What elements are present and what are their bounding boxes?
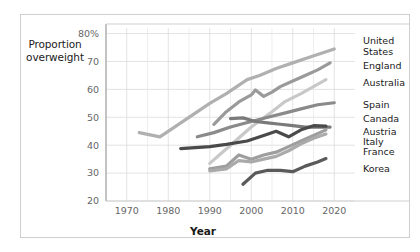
y-tick-label: 30 xyxy=(87,167,99,178)
figure-container: Proportion overweight Year 2030405060708… xyxy=(0,0,420,252)
y-tick-label: 40 xyxy=(87,140,99,151)
legend-label-line2: States xyxy=(363,47,394,58)
y-tick-label: 50 xyxy=(87,112,99,123)
legend-label-spain: Spain xyxy=(363,100,390,111)
y-tick-label: 20 xyxy=(87,195,99,206)
x-tick-label: 1980 xyxy=(156,205,180,216)
y-tick-labels-group: 20304050607080% xyxy=(78,28,99,206)
x-tick-label: 1970 xyxy=(115,205,139,216)
legend-label-united-states: UnitedStates xyxy=(363,36,394,57)
x-tick-labels-group: 197019801990200020102020 xyxy=(115,205,347,216)
x-tick-label: 2020 xyxy=(322,205,346,216)
y-tick-label: 80% xyxy=(78,28,99,39)
legend-label-korea: Korea xyxy=(363,164,390,175)
legend-label-australia: Australia xyxy=(363,78,405,89)
x-tick-label: 2010 xyxy=(281,205,305,216)
y-tick-label: 70 xyxy=(87,56,99,67)
x-tick-label: 1990 xyxy=(198,205,222,216)
legend-label-england: England xyxy=(363,61,402,72)
y-tick-label: 60 xyxy=(87,84,99,95)
x-tick-label: 2000 xyxy=(239,205,263,216)
line-chart-plot: 20304050607080% 197019801990200020102020 xyxy=(0,0,420,252)
legend-label-line1: United xyxy=(363,36,394,47)
legend-label-canada: Canada xyxy=(363,114,399,125)
legend-label-france: France xyxy=(363,147,395,158)
